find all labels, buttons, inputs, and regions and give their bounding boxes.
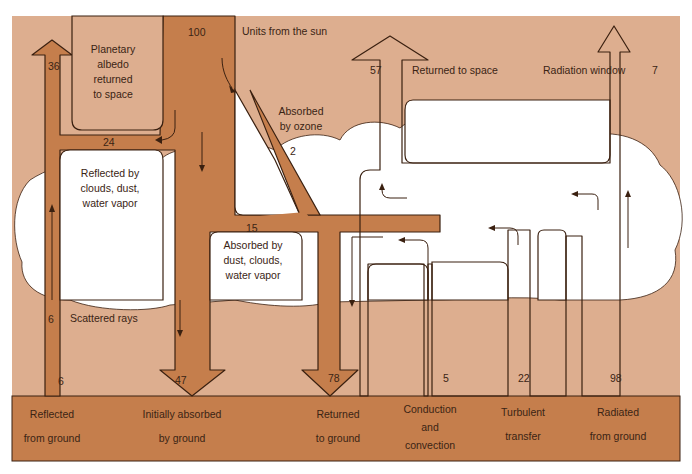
- ozone-line-2: by ozone: [279, 119, 324, 134]
- label-radiation-window: Radiation window: [543, 63, 625, 78]
- albedo-line-4: to space: [91, 87, 135, 102]
- ground-label-line: convection: [403, 436, 456, 454]
- label-scattered-rays: Scattered rays: [70, 311, 138, 326]
- ozone-line-1: Absorbed: [279, 104, 324, 119]
- ground-label-line: by ground: [143, 426, 222, 450]
- ground-label-line: transfer: [501, 424, 545, 448]
- value-6-reflected: 6: [58, 375, 64, 387]
- ground-label-line: and: [403, 418, 456, 436]
- value-15: 15: [246, 222, 258, 234]
- ground-label-line: Conduction: [403, 400, 456, 418]
- ground-label-line: from ground: [24, 426, 81, 450]
- reflected-line-3: water vapor: [81, 196, 140, 211]
- value-7: 7: [652, 64, 658, 76]
- ground-label-line: Initially absorbed: [143, 402, 222, 426]
- albedo-line-3: returned: [91, 72, 135, 87]
- albedo-line-2: albedo: [91, 57, 135, 72]
- reflected-line-2: clouds, dust,: [81, 181, 140, 196]
- ground-label-turbulent: Turbulent transfer: [501, 400, 545, 448]
- ground-label-conduction: Conduction and convection: [403, 400, 456, 454]
- ground-label-radiated: Radiated from ground: [590, 400, 647, 448]
- ground-label-line: Turbulent: [501, 400, 545, 424]
- ground-label-line: Returned: [316, 402, 360, 426]
- label-returned-to-space: Returned to space: [412, 63, 498, 78]
- label-absorbed-by-ozone: Absorbed by ozone: [279, 104, 324, 134]
- ground-label-line: to ground: [316, 426, 360, 450]
- label-units-from-sun: Units from the sun: [242, 24, 327, 39]
- albedo-line-1: Planetary: [91, 42, 135, 57]
- value-5: 5: [443, 372, 449, 384]
- value-36: 36: [48, 60, 60, 72]
- value-100: 100: [188, 26, 206, 38]
- reflected-line-1: Reflected by: [81, 166, 140, 181]
- label-absorbed-by-dust: Absorbed by dust, clouds, water vapor: [224, 238, 283, 283]
- label-reflected-by-clouds: Reflected by clouds, dust, water vapor: [81, 166, 140, 211]
- absorbed-dust-line-3: water vapor: [224, 268, 283, 283]
- ground-label-line: Reflected: [24, 402, 81, 426]
- absorbed-dust-line-2: dust, clouds,: [224, 253, 283, 268]
- ground-label-returned: Returned to ground: [316, 402, 360, 450]
- label-planetary-albedo: Planetary albedo returned to space: [91, 42, 135, 102]
- ground-label-initially-absorbed: Initially absorbed by ground: [143, 402, 222, 450]
- absorbed-dust-line-1: Absorbed by: [224, 238, 283, 253]
- value-78: 78: [328, 372, 340, 384]
- value-57: 57: [370, 64, 382, 76]
- value-47: 47: [175, 374, 187, 386]
- ground-label-line: from ground: [590, 424, 647, 448]
- ground-label-reflected: Reflected from ground: [24, 402, 81, 450]
- value-98: 98: [610, 372, 622, 384]
- value-2: 2: [290, 145, 296, 157]
- value-6-scattered: 6: [48, 313, 54, 325]
- value-24: 24: [103, 136, 115, 148]
- value-22: 22: [518, 372, 530, 384]
- ground-label-line: Radiated: [590, 400, 647, 424]
